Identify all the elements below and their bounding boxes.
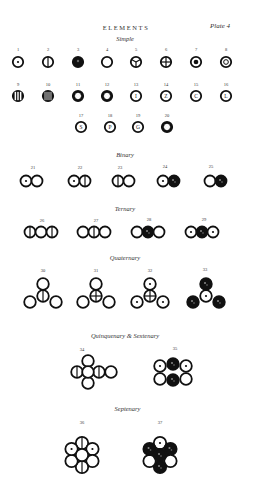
dalton-elements-plate: ELEMENTS Plate 4 Simple Binary Ternary Q… [0, 0, 255, 492]
atom-highlight [171, 378, 173, 380]
atom-highlight [171, 449, 173, 451]
atom-ring [24, 296, 36, 308]
atom-highlight [173, 380, 175, 382]
element-symbol-1 [13, 57, 23, 67]
compound-symbol-28 [132, 227, 165, 238]
compound-symbol-31 [77, 278, 115, 308]
compound-symbol-35 [154, 358, 192, 386]
element-symbol-3 [73, 57, 83, 67]
atom-ring [50, 296, 62, 308]
compound-symbol-21 [21, 176, 43, 187]
atom-dot [70, 448, 72, 450]
atom-highlight [173, 364, 175, 366]
atom-highlight [204, 282, 206, 284]
element-symbol-5 [131, 57, 141, 67]
atom-highlight [160, 455, 162, 457]
atom-dot [159, 365, 161, 367]
element-symbol-12 [102, 91, 112, 101]
compound-symbol-33 [187, 278, 225, 308]
atom-inner-disc [194, 60, 199, 65]
atom-dot [136, 301, 138, 303]
element-symbol-18: P [105, 122, 115, 132]
atom-highlight [168, 447, 170, 449]
compound-symbol-26 [25, 227, 58, 238]
atom-ring [37, 278, 49, 290]
atom-ring [76, 449, 88, 461]
atom-highlight [206, 284, 208, 286]
atomic-symbols-layer: IZCLSPG [0, 0, 255, 492]
atom-ring [82, 377, 94, 389]
element-symbol-16: L [221, 91, 231, 101]
atom-dot [91, 448, 93, 450]
atom-ring [169, 176, 180, 187]
atom-star-center [165, 125, 169, 129]
atom-ring [154, 373, 166, 385]
atom-highlight [217, 300, 219, 302]
atom-ring [187, 296, 199, 308]
atom-ring [103, 296, 115, 308]
atom-letter: S [79, 124, 82, 130]
atom-highlight [202, 232, 204, 234]
atom-ring [167, 374, 179, 386]
atom-dot [25, 180, 27, 182]
atom-highlight [148, 232, 150, 234]
atom-dot [17, 61, 19, 63]
atom-highlight [191, 300, 193, 302]
atom-ring [143, 227, 154, 238]
element-symbol-7 [191, 57, 201, 67]
atom-window [15, 92, 22, 100]
compound-symbol-32 [131, 278, 169, 308]
atom-dot [73, 180, 75, 182]
element-symbol-20 [162, 122, 172, 132]
atom-star-center [76, 94, 80, 98]
element-symbol-2 [43, 57, 53, 67]
atom-dot [190, 231, 192, 233]
atom-ring [205, 176, 216, 187]
atom-highlight [77, 60, 79, 62]
element-symbol-13: I [131, 91, 141, 101]
atom-ring [82, 366, 94, 378]
atom-dot [185, 365, 187, 367]
atom-ring [197, 227, 208, 238]
atom-highlight [150, 449, 152, 451]
atom-highlight [193, 302, 195, 304]
atom-highlight [219, 179, 221, 181]
atom-dot [162, 301, 164, 303]
atom-ring [221, 57, 231, 67]
atom-highlight [200, 230, 202, 232]
atom-highlight [146, 230, 148, 232]
atom-ring [180, 373, 192, 385]
element-symbol-10 [43, 91, 53, 101]
compound-symbol-24 [158, 176, 180, 187]
atom-ring [90, 278, 102, 290]
atom-ring [105, 366, 117, 378]
atom-ring [100, 227, 111, 238]
atom-ring [32, 176, 43, 187]
compound-symbol-34 [71, 355, 117, 389]
atom-highlight [148, 447, 150, 449]
element-symbol-11 [73, 91, 83, 101]
atom-highlight [158, 453, 160, 455]
atom-ring [82, 355, 94, 367]
atom-highlight [172, 179, 174, 181]
compound-symbol-22 [69, 176, 91, 187]
atom-star-center [105, 94, 109, 98]
atom-ring [154, 449, 166, 461]
atom-highlight [219, 302, 221, 304]
atom-dot [162, 180, 164, 182]
element-symbol-17: S [76, 122, 86, 132]
element-symbol-9 [13, 91, 23, 101]
element-symbol-14: Z [161, 91, 171, 101]
atom-ring [200, 278, 212, 290]
atom-highlight [160, 467, 162, 469]
atom-ring [36, 227, 47, 238]
atom-dot [149, 283, 151, 285]
atom-highlight [171, 362, 173, 364]
compound-symbol-37 [143, 437, 176, 473]
atom-ring [154, 227, 165, 238]
compound-symbol-29 [186, 227, 219, 238]
atom-letter: G [136, 124, 140, 130]
element-symbol-6 [161, 57, 171, 67]
atom-letter: I [135, 93, 137, 99]
atom-ring [77, 296, 89, 308]
